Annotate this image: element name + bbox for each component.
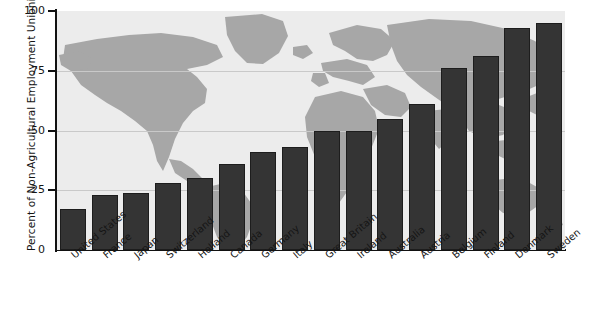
bar-slot bbox=[155, 11, 181, 250]
bar-belgium[interactable] bbox=[441, 68, 467, 250]
bar-slot bbox=[314, 11, 340, 250]
y-tick-25 bbox=[48, 189, 56, 191]
y-tick-50 bbox=[48, 130, 56, 132]
bar-slot bbox=[409, 11, 435, 250]
bar-sweden[interactable] bbox=[536, 23, 562, 250]
y-tick-label-50: 50 bbox=[11, 124, 45, 137]
bar-slot bbox=[441, 11, 467, 250]
y-tick-label-75: 75 bbox=[11, 64, 45, 77]
bar-slot bbox=[377, 11, 403, 250]
y-tick-75 bbox=[48, 70, 56, 72]
bar-slot bbox=[250, 11, 276, 250]
bar-denmark[interactable] bbox=[504, 28, 530, 250]
y-tick-label-25: 25 bbox=[11, 183, 45, 196]
bar-finland[interactable] bbox=[473, 56, 499, 250]
bar-slot bbox=[219, 11, 245, 250]
y-tick-label-100: 100 bbox=[11, 4, 45, 17]
bar-great-britain[interactable] bbox=[314, 131, 340, 251]
x-axis-labels: United StatesFranceJapanSwitzerlandHolla… bbox=[57, 252, 565, 318]
union-density-bar-chart: Percent of Non-Agricultural Employment U… bbox=[0, 0, 596, 318]
bars-layer bbox=[57, 11, 565, 250]
bar-slot bbox=[536, 11, 562, 250]
bar-slot bbox=[60, 11, 86, 250]
bar-slot bbox=[123, 11, 149, 250]
bar-slot bbox=[282, 11, 308, 250]
bar-slot bbox=[504, 11, 530, 250]
y-tick-100 bbox=[48, 10, 56, 12]
bar-slot bbox=[473, 11, 499, 250]
y-tick-label-0: 0 bbox=[11, 243, 45, 256]
